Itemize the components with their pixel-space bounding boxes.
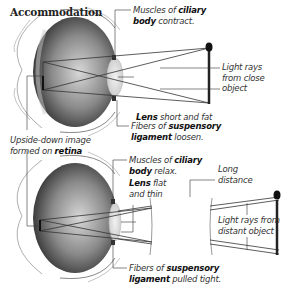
label-ciliary-contract: Muscles of ciliary body contract. — [133, 5, 206, 26]
label-fibers-loosen: Fibers of suspensory ligament loosen. — [131, 121, 221, 142]
label-lens-thin: Lens flat and thin — [129, 178, 166, 199]
diagram-title: Accommodation — [10, 6, 102, 18]
label-upside-down-image: Upside-down image formed on retina — [10, 135, 91, 156]
label-long-distance: Long distance — [218, 164, 252, 185]
label-light-rays-distant: Light rays from distant object — [218, 215, 280, 236]
label-ciliary-relax: Muscles of ciliary body relax. — [129, 155, 202, 176]
label-fibers-tight: Fibers of suspensory ligament pulled tig… — [129, 263, 221, 284]
label-light-rays-close: Light rays from close object — [222, 62, 265, 94]
